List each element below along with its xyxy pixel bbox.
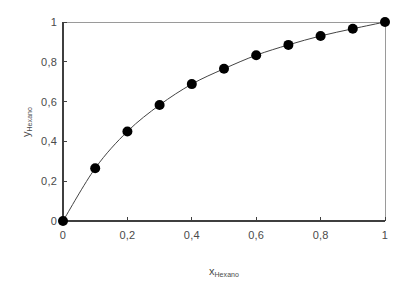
x-axis-title: xHexano — [209, 265, 239, 277]
data-point — [58, 216, 68, 226]
x-tick-label: 0,4 — [184, 229, 200, 241]
x-tick-label: 0,6 — [248, 229, 264, 241]
data-point — [283, 40, 293, 50]
y-axis-title-subscript: Hexano — [26, 107, 33, 132]
data-point — [251, 50, 261, 60]
data-point — [316, 31, 326, 41]
data-point — [122, 126, 132, 136]
plot-area — [0, 0, 416, 293]
x-tick-label: 0 — [60, 229, 66, 241]
equilibrium-curve — [63, 22, 385, 221]
data-point — [219, 64, 229, 74]
data-point — [348, 24, 358, 34]
data-point — [155, 100, 165, 110]
y-tick-label: 0,4 — [37, 135, 57, 147]
data-point — [380, 17, 390, 27]
y-tick-label: 0,2 — [37, 175, 57, 187]
y-tick-label: 0,6 — [37, 96, 57, 108]
x-axis-title-main: x — [209, 265, 215, 277]
data-point — [90, 163, 100, 173]
y-axis-title-main: y — [20, 132, 32, 138]
y-axis-title: yHexano — [20, 107, 32, 137]
x-tick-label: 1 — [382, 229, 388, 241]
data-point — [187, 79, 197, 89]
plot-frame — [63, 22, 385, 221]
axis-ticks — [63, 22, 385, 221]
y-tick-label: 0,8 — [37, 56, 57, 68]
y-tick-label: 0 — [37, 215, 57, 227]
x-axis-title-subscript: Hexano — [214, 271, 239, 278]
x-tick-label: 0,8 — [313, 229, 329, 241]
curve-path — [63, 22, 385, 221]
equilibrium-chart-figure: 00,20,40,60,81 00,20,40,60,81 xHexano yH… — [0, 0, 416, 293]
data-point-markers — [58, 17, 390, 226]
y-tick-label: 1 — [37, 16, 57, 28]
x-tick-label: 0,2 — [119, 229, 135, 241]
